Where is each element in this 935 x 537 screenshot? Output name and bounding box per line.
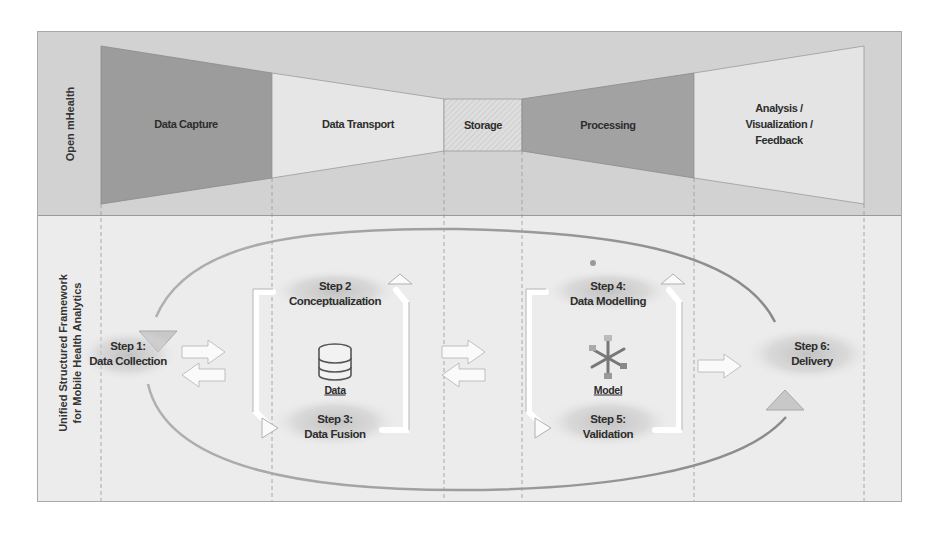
exchange-arrows <box>182 340 741 387</box>
model-icon <box>589 335 627 379</box>
database-icon <box>319 344 351 380</box>
stage-label-storage: Storage <box>464 118 502 133</box>
data-caption: Data <box>324 383 345 398</box>
outer-loop-bottom <box>148 384 786 490</box>
step-1-data-collection: Step 1: Data Collection <box>89 339 167 369</box>
diagram-frame: Data Capture Data Transport Storage Proc… <box>37 31 902 502</box>
stage-label-analysis: Analysis / Visualization / Feedback <box>745 100 812 148</box>
step-6-delivery: Step 6: Delivery <box>791 339 833 369</box>
stage-label-data-capture: Data Capture <box>154 117 218 132</box>
column-guides <box>101 151 864 501</box>
arrow-up-to-step6 <box>766 390 804 410</box>
step-2-conceptualization: Step 2 Conceptualization <box>289 279 381 309</box>
step-3-data-fusion: Step 3: Data Fusion <box>304 412 365 442</box>
stage-label-processing: Processing <box>580 118 635 133</box>
side-label-open-mhealth: Open mHealth <box>64 87 77 162</box>
side-label-framework: Unified Structured Framework for Mobile … <box>56 274 84 432</box>
step-5-validation: Step 5: Validation <box>583 412 633 442</box>
stage-label-data-transport: Data Transport <box>322 117 394 132</box>
step-4-data-modelling: Step 4: Data Modelling <box>570 279 646 309</box>
model-caption: Model <box>594 383 622 398</box>
